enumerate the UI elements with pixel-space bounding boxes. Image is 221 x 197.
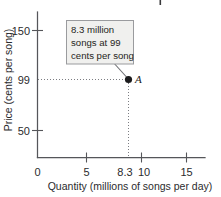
data-point-a [125,76,132,83]
y-tick-label-99: 99 [18,74,30,86]
annotation-line-3: cents per song [71,50,134,61]
x-tick-label-8-3: 8.3 [117,166,132,178]
top-edge-artifact [160,0,162,5]
x-tick-label-5: 5 [83,166,89,178]
annotation-line-1: 8.3 million [71,24,114,35]
y-tick-label-50: 50 [18,125,30,137]
x-tick-label-10: 10 [138,166,150,178]
price-quantity-chart: 8.3 million songs at 99 cents per song A… [0,0,221,197]
y-tick-label-150: 150 [12,25,30,37]
y-axis-title: Price (cents per song) [2,29,14,132]
x-tick-label-0: 0 [34,166,40,178]
data-point-label-a: A [134,73,142,85]
annotation-line-2: songs at 99 [71,37,121,48]
x-axis-title: Quantity (millions of songs per day) [48,180,213,192]
x-tick-label-15: 15 [180,166,192,178]
